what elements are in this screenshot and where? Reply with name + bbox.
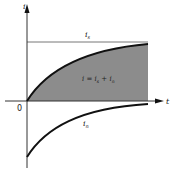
current-diagram: i t 0 is i = is + in in — [0, 0, 174, 175]
shaded-area — [27, 44, 148, 101]
natural-response-curve — [27, 104, 148, 157]
steady-state-label: is — [85, 30, 91, 40]
natural-response-label: in — [83, 119, 89, 129]
x-axis-arrow-icon — [155, 99, 164, 104]
y-axis-label: i — [23, 2, 26, 11]
x-axis-label: t — [166, 97, 170, 106]
total-current-label: i = is + in — [82, 75, 115, 84]
origin-label: 0 — [17, 104, 22, 113]
